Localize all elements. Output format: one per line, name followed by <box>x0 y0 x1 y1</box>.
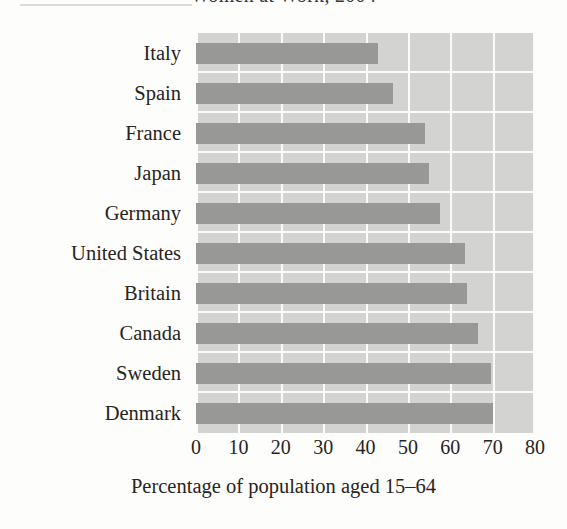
row-separator <box>196 191 535 193</box>
bar[interactable] <box>196 283 467 304</box>
bar-row[interactable] <box>196 353 535 393</box>
bar-row[interactable] <box>196 273 535 313</box>
bar-row[interactable] <box>196 233 535 273</box>
category-axis-labels: ItalySpainFranceJapanGermanyUnited State… <box>0 33 190 433</box>
row-separator <box>196 351 535 353</box>
row-separator <box>196 271 535 273</box>
xaxis-tick-label: 10 <box>228 437 248 457</box>
category-label: Sweden <box>0 353 190 393</box>
bar-row[interactable] <box>196 193 535 233</box>
chart-title: Women at Work, 2004 <box>0 0 567 7</box>
xaxis-tick-label: 30 <box>313 437 333 457</box>
xaxis-tick-label: 50 <box>398 437 418 457</box>
xaxis-tick-label: 80 <box>525 437 545 457</box>
row-separator <box>196 151 535 153</box>
row-separator <box>196 111 535 113</box>
bar-row[interactable] <box>196 33 535 73</box>
category-label: Britain <box>0 273 190 313</box>
bar-rows <box>196 33 535 433</box>
chart-title-clip-region: Women at Work, 2004 <box>0 0 567 14</box>
category-label: Canada <box>0 313 190 353</box>
xaxis-tick-label: 40 <box>356 437 376 457</box>
bar[interactable] <box>196 43 378 64</box>
bar[interactable] <box>196 163 429 184</box>
xaxis-title: Percentage of population aged 15–64 <box>0 475 567 498</box>
row-separator <box>196 391 535 393</box>
bar-chart: ItalySpainFranceJapanGermanyUnited State… <box>0 14 567 529</box>
value-axis-ticks: 01020304050607080 <box>196 435 535 465</box>
row-separator <box>196 311 535 313</box>
bar-row[interactable] <box>196 153 535 193</box>
bar[interactable] <box>196 323 478 344</box>
row-separator <box>196 71 535 73</box>
bar[interactable] <box>196 203 440 224</box>
bar[interactable] <box>196 123 425 144</box>
bar[interactable] <box>196 403 493 424</box>
xaxis-tick-label: 20 <box>271 437 291 457</box>
category-label: France <box>0 113 190 153</box>
xaxis-tick-label: 70 <box>483 437 503 457</box>
category-label: Italy <box>0 33 190 73</box>
bar-row[interactable] <box>196 73 535 113</box>
plot-area <box>196 33 535 433</box>
bar-row[interactable] <box>196 113 535 153</box>
xaxis-tick-label: 60 <box>440 437 460 457</box>
category-label: Denmark <box>0 393 190 433</box>
bar[interactable] <box>196 363 491 384</box>
category-label: Spain <box>0 73 190 113</box>
bar[interactable] <box>196 83 393 104</box>
bar[interactable] <box>196 243 465 264</box>
xaxis-tick-label: 0 <box>191 437 201 457</box>
bar-row[interactable] <box>196 313 535 353</box>
row-separator <box>196 231 535 233</box>
category-label: United States <box>0 233 190 273</box>
bar-row[interactable] <box>196 393 535 433</box>
category-label: Germany <box>0 193 190 233</box>
category-label: Japan <box>0 153 190 193</box>
